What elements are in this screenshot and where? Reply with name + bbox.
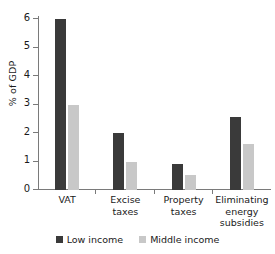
y-axis-tick-label: 0	[24, 183, 30, 195]
y-axis-tick-label: 5	[24, 40, 30, 52]
bar-group-bars	[38, 19, 96, 190]
bar-middle-income[interactable]	[243, 144, 254, 190]
bar-middle-income[interactable]	[185, 175, 196, 190]
bar-group-bars	[213, 19, 271, 190]
bar-group	[155, 19, 213, 190]
legend-label: Low income	[67, 234, 124, 245]
y-axis-title: % of GDP	[7, 48, 18, 120]
bar-chart: % of GDP 0123456 VATExcise taxesProperty…	[0, 0, 275, 254]
x-axis-category-label: VAT	[38, 194, 96, 229]
bar-middle-income[interactable]	[126, 162, 137, 191]
plot-area: 0123456	[38, 19, 271, 190]
legend-item-middle-income[interactable]: Middle income	[139, 234, 219, 245]
bar-low-income[interactable]	[55, 19, 66, 190]
x-axis-category-label: Property taxes	[155, 194, 213, 229]
bar-group	[213, 19, 271, 190]
legend-label: Middle income	[150, 234, 219, 245]
y-axis-tick-label: 6	[24, 12, 30, 24]
legend-item-low-income[interactable]: Low income	[56, 234, 124, 245]
y-axis-tick-label: 2	[24, 126, 30, 138]
bar-low-income[interactable]	[230, 117, 241, 190]
bar-group	[96, 19, 154, 190]
bar-group-bars	[155, 19, 213, 190]
bar-group-bars	[96, 19, 154, 190]
x-axis-category-label: Excise taxes	[96, 194, 154, 229]
bar-low-income[interactable]	[113, 133, 124, 190]
y-axis-tick-label: 3	[24, 97, 30, 109]
bar-groups	[38, 19, 271, 190]
y-axis-tick-label: 1	[24, 154, 30, 166]
legend-swatch-icon	[139, 236, 146, 243]
legend-swatch-icon	[56, 236, 63, 243]
bar-low-income[interactable]	[172, 164, 183, 191]
x-axis-category-label: Eliminating energy subsidies	[213, 194, 271, 229]
bar-group	[38, 19, 96, 190]
x-axis-category-labels: VATExcise taxesProperty taxesEliminating…	[38, 194, 271, 229]
bar-middle-income[interactable]	[68, 105, 79, 191]
y-axis-tick-label: 4	[24, 69, 30, 81]
chart-legend: Low incomeMiddle income	[0, 234, 275, 245]
